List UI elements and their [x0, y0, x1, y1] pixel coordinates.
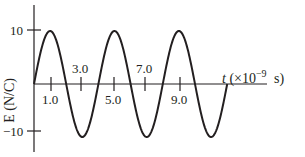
x-tick-label-1: 1.0 [42, 93, 58, 106]
x-tick-label-3: 3.0 [72, 62, 88, 75]
x-tick-label-9: 9.0 [171, 93, 187, 106]
x-axis-label: t (×10−9 s) [222, 67, 284, 85]
x-tick-label-5: 5.0 [105, 93, 121, 106]
y-tick-label-neg10: −10 [3, 125, 23, 138]
x-tick-label-7: 7.0 [136, 62, 152, 75]
y-axis-label: E (N/C) [2, 33, 18, 78]
